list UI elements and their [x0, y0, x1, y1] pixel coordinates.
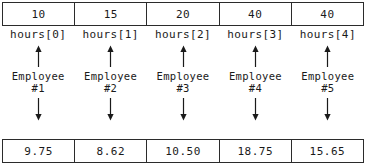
entity-name: Employee: [84, 70, 137, 82]
entity-label: Employee #2: [84, 70, 137, 94]
entity-id: #3: [157, 82, 210, 94]
hours-array-cell: 15: [74, 2, 147, 26]
entity-columns: hours[0] Employee #1 hours[1] Employee: [2, 26, 364, 139]
entity-column: hours[2] Employee #3: [147, 26, 219, 139]
entity-label: Employee #4: [229, 70, 282, 94]
entity-id: #4: [229, 82, 282, 94]
pay-array-cell: 10.50: [146, 139, 219, 163]
entity-column: hours[4] Employee #5: [292, 26, 364, 139]
hours-array-cell: 20: [146, 2, 219, 26]
pay-array-cell: 18.75: [219, 139, 292, 163]
arrow-up-icon: [179, 45, 188, 67]
arrow-down-icon: [34, 98, 43, 121]
hours-array-cell: 10: [2, 2, 75, 26]
hours-index-label: hours[3]: [227, 29, 283, 40]
pay-array: 9.75 8.62 10.50 18.75 15.65: [2, 139, 364, 163]
arrow-up-icon: [323, 45, 332, 67]
arrow-down-icon: [106, 98, 115, 121]
entity-id: #2: [84, 82, 137, 94]
arrow-up-icon: [106, 45, 115, 67]
pay-array-cell: 8.62: [74, 139, 147, 163]
pay-array-cell: 15.65: [291, 139, 364, 163]
arrow-down-icon: [251, 98, 260, 121]
arrow-up-icon: [251, 45, 260, 67]
entity-label: Employee #5: [301, 70, 354, 94]
hours-index-label: hours[2]: [155, 29, 211, 40]
entity-name: Employee: [301, 70, 354, 82]
hours-array-cell: 40: [219, 2, 292, 26]
hours-index-label: hours[1]: [83, 29, 139, 40]
entity-column: hours[3] Employee #4: [219, 26, 291, 139]
hours-array-cell: 40: [291, 2, 364, 26]
pay-array-cell: 9.75: [2, 139, 75, 163]
entity-id: #1: [12, 82, 65, 94]
entity-column: hours[1] Employee #2: [74, 26, 146, 139]
hours-index-label: hours[4]: [300, 29, 356, 40]
hours-array: 10 15 20 40 40: [2, 2, 364, 26]
entity-name: Employee: [229, 70, 282, 82]
hours-index-label: hours[0]: [10, 29, 66, 40]
entity-label: Employee #1: [12, 70, 65, 94]
entity-name: Employee: [12, 70, 65, 82]
entity-label: Employee #3: [157, 70, 210, 94]
arrow-down-icon: [179, 98, 188, 121]
entity-column: hours[0] Employee #1: [2, 26, 74, 139]
entity-id: #5: [301, 82, 354, 94]
entity-name: Employee: [157, 70, 210, 82]
arrow-up-icon: [34, 45, 43, 67]
arrow-down-icon: [323, 98, 332, 121]
parallel-arrays-diagram: 10 15 20 40 40 hours[0] Employee #1 hour…: [0, 0, 368, 166]
